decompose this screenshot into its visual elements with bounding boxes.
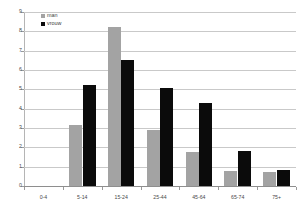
x-axis-tick-mark — [257, 187, 258, 190]
bar-group — [63, 12, 102, 186]
bar-chart: 0123456789 0-45-1415-2425-4445-6465-7475… — [0, 0, 303, 218]
x-axis-tick-label: 25-44 — [153, 195, 166, 200]
bar-man-5-14 — [69, 125, 82, 186]
bar-vrouw-45-64 — [199, 103, 212, 186]
y-axis-tick-label: 9 — [2, 9, 22, 14]
bar-group — [179, 12, 218, 186]
y-axis-tick-label: 1 — [2, 164, 22, 169]
legend-label: vrouw — [47, 21, 61, 26]
y-axis-tick-label: 8 — [2, 29, 22, 34]
y-axis-tick-label: 3 — [2, 125, 22, 130]
y-axis-tick-label: 5 — [2, 87, 22, 92]
x-axis-tick-label: 5-14 — [77, 195, 87, 200]
bar-man-65-74 — [224, 171, 237, 186]
x-axis-tick-label: 45-64 — [192, 195, 205, 200]
y-axis-tick-label: 7 — [2, 48, 22, 53]
y-axis-tick-label: 0 — [2, 183, 22, 188]
bar-vrouw-15-24 — [121, 60, 134, 186]
bar-group — [218, 12, 257, 186]
x-axis-tick-label: 15-24 — [115, 195, 128, 200]
y-axis-tick-label: 4 — [2, 106, 22, 111]
y-axis-tick-label: 6 — [2, 67, 22, 72]
bar-group — [24, 12, 63, 186]
y-axis-tick-label: 2 — [2, 145, 22, 150]
legend-swatch-icon — [41, 14, 45, 18]
x-axis-tick-mark — [102, 187, 103, 190]
bar-group — [102, 12, 141, 186]
x-axis-tick-mark — [24, 187, 25, 190]
legend-item-vrouw: vrouw — [41, 20, 61, 27]
bar-man-75+ — [263, 172, 276, 186]
bar-group — [257, 12, 296, 186]
chart-legend: manvrouw — [41, 12, 61, 27]
x-axis-tick-mark — [179, 187, 180, 190]
bar-group — [141, 12, 180, 186]
x-axis-line — [24, 186, 296, 187]
legend-swatch-icon — [41, 22, 45, 26]
legend-label: man — [47, 13, 58, 18]
bar-vrouw-65-74 — [238, 151, 251, 186]
x-axis-tick-mark — [296, 187, 297, 190]
bar-vrouw-75+ — [277, 170, 290, 186]
x-axis-tick-mark — [141, 187, 142, 190]
bar-man-25-44 — [147, 130, 160, 186]
x-axis-tick-label: 0-4 — [40, 195, 48, 200]
x-axis-tick-mark — [218, 187, 219, 190]
x-axis-tick-label: 75+ — [272, 195, 281, 200]
x-axis-tick-label: 65-74 — [231, 195, 244, 200]
plot-area — [24, 12, 296, 186]
bar-vrouw-5-14 — [83, 85, 96, 187]
bar-man-45-64 — [186, 152, 199, 186]
bar-man-15-24 — [108, 27, 121, 187]
x-axis-tick-mark — [63, 187, 64, 190]
legend-item-man: man — [41, 12, 61, 19]
bar-vrouw-25-44 — [160, 88, 173, 186]
